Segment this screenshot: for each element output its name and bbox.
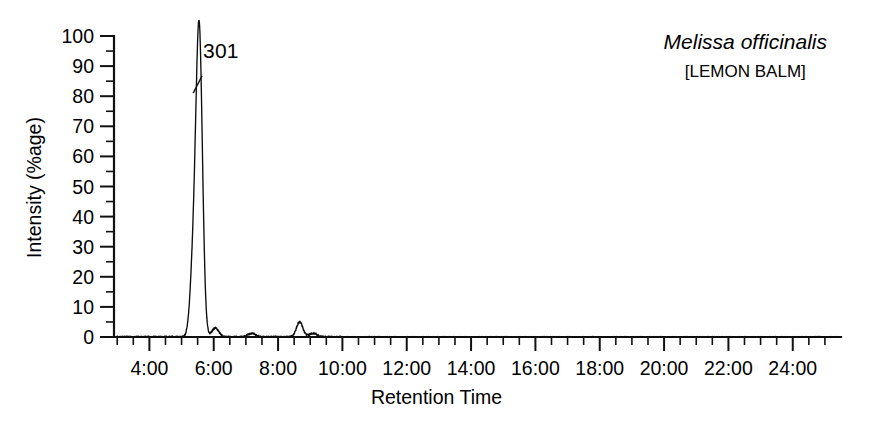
svg-text:12:00: 12:00 bbox=[382, 357, 431, 379]
svg-text:70: 70 bbox=[72, 115, 94, 137]
svg-text:50: 50 bbox=[72, 176, 94, 198]
x-axis-title: Retention Time bbox=[0, 386, 873, 409]
svg-text:20: 20 bbox=[72, 266, 94, 288]
svg-text:60: 60 bbox=[72, 145, 94, 167]
chromatogram-figure: 0102030405060708090100 4:006:008:0010:00… bbox=[0, 0, 873, 432]
svg-text:8:00: 8:00 bbox=[259, 357, 297, 379]
y-axis-ticks bbox=[100, 36, 114, 337]
svg-text:10:00: 10:00 bbox=[318, 357, 367, 379]
sample-caption: Melissa officinalis [LEMON BALM] bbox=[664, 28, 827, 83]
svg-text:40: 40 bbox=[72, 206, 94, 228]
svg-text:30: 30 bbox=[72, 236, 94, 258]
svg-text:0: 0 bbox=[83, 326, 94, 348]
svg-text:24:00: 24:00 bbox=[768, 357, 817, 379]
peak-label-301: 301 bbox=[203, 39, 239, 63]
svg-text:6:00: 6:00 bbox=[195, 357, 233, 379]
svg-text:22:00: 22:00 bbox=[704, 357, 753, 379]
x-axis-tick-labels: 4:006:008:0010:0012:0014:0016:0018:0020:… bbox=[130, 357, 817, 379]
svg-text:16:00: 16:00 bbox=[511, 357, 560, 379]
y-axis-tick-labels: 0102030405060708090100 bbox=[61, 25, 94, 348]
svg-text:18:00: 18:00 bbox=[575, 357, 624, 379]
svg-text:14:00: 14:00 bbox=[447, 357, 496, 379]
svg-text:10: 10 bbox=[72, 296, 94, 318]
svg-text:4:00: 4:00 bbox=[130, 357, 168, 379]
y-axis-title: Intensity (%age) bbox=[23, 88, 46, 288]
svg-text:100: 100 bbox=[61, 25, 94, 47]
x-axis-ticks bbox=[117, 337, 825, 351]
species-name: Melissa officinalis bbox=[664, 28, 827, 57]
svg-text:80: 80 bbox=[72, 85, 94, 107]
svg-text:20:00: 20:00 bbox=[640, 357, 689, 379]
common-name: [LEMON BALM] bbox=[664, 60, 827, 83]
svg-text:90: 90 bbox=[72, 55, 94, 77]
